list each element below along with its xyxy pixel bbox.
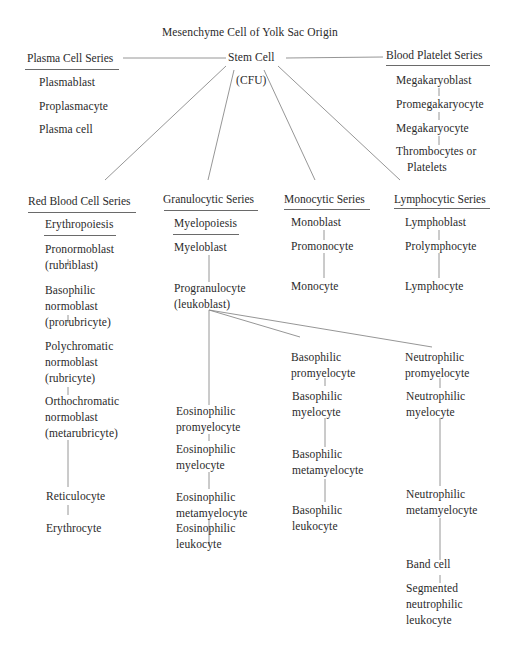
red-stage: (prorubricyte) bbox=[45, 314, 111, 330]
granulocytic-series-rule bbox=[164, 210, 258, 211]
stem-cell-sublabel: (CFU) bbox=[236, 72, 267, 88]
granulocytic-subtitle-rule bbox=[173, 234, 239, 235]
root-cell-label: Mesenchyme Cell of Yolk Sac Origin bbox=[162, 24, 338, 40]
red-series-title: Red Blood Cell Series bbox=[28, 193, 131, 209]
eosinophilic-stage: Eosinophilic bbox=[176, 489, 235, 505]
red-stage: Orthochromatic bbox=[45, 393, 119, 409]
neutrophilic-stage: Segmented bbox=[406, 580, 458, 596]
basophilic-stage: myelocyte bbox=[292, 404, 341, 420]
basophilic-stage: Basophilic bbox=[291, 349, 341, 365]
lymphocytic-series-title: Lymphocytic Series bbox=[394, 191, 486, 207]
basophilic-stage: Basophilic bbox=[292, 388, 342, 404]
monocytic-stage: Monocyte bbox=[291, 278, 338, 294]
platelet-series-rule bbox=[386, 65, 490, 66]
monocytic-stage: Monoblast bbox=[291, 214, 341, 230]
eosinophilic-stage: metamyelocyte bbox=[176, 505, 248, 521]
neutrophilic-stage: Band cell bbox=[406, 556, 451, 572]
basophilic-stage: Basophilic bbox=[292, 446, 342, 462]
lymphocytic-stage: Prolymphocyte bbox=[405, 238, 477, 254]
platelet-series-title: Blood Platelet Series bbox=[386, 47, 482, 63]
platelet-stage: Megakaryocyte bbox=[396, 120, 469, 136]
red-stage: Reticulocyte bbox=[46, 488, 105, 504]
eosinophilic-stage: leukocyte bbox=[176, 536, 222, 552]
lymphocytic-series-rule bbox=[394, 208, 490, 209]
neutrophilic-stage: metamyelocyte bbox=[406, 502, 478, 518]
red-series-rule bbox=[28, 212, 136, 213]
plasma-stage: Plasma cell bbox=[39, 121, 93, 137]
neutrophilic-stage: neutrophilic bbox=[406, 596, 463, 612]
neutrophilic-stage: Neutrophilic bbox=[405, 349, 464, 365]
red-stage: Pronormoblast bbox=[45, 241, 114, 257]
eosinophilic-stage: Eosinophilic bbox=[176, 441, 235, 457]
neutrophilic-stage: Neutrophilic bbox=[406, 486, 465, 502]
red-stage: normoblast bbox=[45, 298, 98, 314]
monocytic-stage: Promonocyte bbox=[291, 238, 353, 254]
granulocytic-stage: Myeloblast bbox=[174, 239, 227, 255]
granulocytic-series-title: Granulocytic Series bbox=[163, 191, 254, 207]
plasma-series-title: Plasma Cell Series bbox=[27, 50, 113, 66]
stem-cell-label: Stem Cell bbox=[228, 49, 275, 65]
granulocytic-stage: (leukoblast) bbox=[174, 296, 230, 312]
red-stage: (metarubricyte) bbox=[45, 425, 118, 441]
granulocytic-series-subtitle: Myelopoiesis bbox=[174, 215, 237, 231]
eosinophilic-stage: Eosinophilic bbox=[176, 403, 235, 419]
monocytic-series-title: Monocytic Series bbox=[284, 191, 365, 207]
eosinophilic-stage: promyelocyte bbox=[176, 419, 240, 435]
lymphocytic-stage: Lymphoblast bbox=[405, 214, 466, 230]
neutrophilic-stage: myelocyte bbox=[406, 404, 455, 420]
red-stage: (rubricyte) bbox=[45, 370, 95, 386]
monocytic-series-rule bbox=[284, 209, 370, 210]
plasma-stage: Plasmablast bbox=[39, 74, 95, 90]
eosinophilic-stage: Eosinophilic bbox=[176, 520, 235, 536]
eosinophilic-stage: myelocyte bbox=[176, 457, 225, 473]
neutrophilic-stage: leukocyte bbox=[406, 612, 452, 628]
granulocytic-stage: Progranulocyte bbox=[174, 280, 246, 296]
red-stage: normoblast bbox=[45, 409, 98, 425]
red-subtitle-rule bbox=[44, 235, 116, 236]
platelet-stage: Platelets bbox=[407, 159, 447, 175]
neutrophilic-stage: promyelocyte bbox=[405, 365, 469, 381]
red-stage: Basophilic bbox=[45, 282, 95, 298]
red-stage: (rubriblast) bbox=[45, 257, 98, 273]
plasma-series-rule bbox=[25, 69, 119, 70]
basophilic-stage: promyelocyte bbox=[291, 365, 355, 381]
platelet-stage: Megakaryoblast bbox=[396, 72, 472, 88]
platelet-stage: Promegakaryocyte bbox=[396, 96, 484, 112]
red-stage: Erythrocyte bbox=[46, 520, 101, 536]
basophilic-stage: Basophilic bbox=[292, 502, 342, 518]
neutrophilic-stage: Neutrophilic bbox=[406, 388, 465, 404]
plasma-stage: Proplasmacyte bbox=[39, 98, 108, 114]
red-stage: Polychromatic bbox=[45, 338, 113, 354]
red-stage: normoblast bbox=[45, 354, 98, 370]
platelet-stage: Thrombocytes or bbox=[396, 143, 476, 159]
basophilic-stage: leukocyte bbox=[292, 518, 338, 534]
basophilic-stage: metamyelocyte bbox=[292, 462, 364, 478]
lymphocytic-stage: Lymphocyte bbox=[405, 278, 464, 294]
red-series-subtitle: Erythropoiesis bbox=[45, 216, 113, 232]
